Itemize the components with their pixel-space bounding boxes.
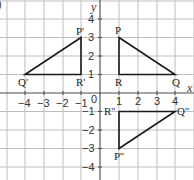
x-tick-label: −2 (56, 97, 69, 109)
coordinate-grid-diagram: ) y x 0 −4 −3 −2 −1 1 2 3 4 4 3 2 1 −1 −… (0, 0, 194, 180)
y-tick-label: −1 (82, 105, 95, 117)
y-tick-label: −3 (82, 142, 95, 154)
vertex-label-p-double-prime: P'' (114, 150, 124, 162)
vertex-label-q-double-prime: Q'' (177, 105, 189, 117)
x-tick-labels: −4 −3 −2 −1 1 2 3 4 (18, 95, 178, 109)
vertex-label-q-prime: Q' (18, 76, 28, 88)
y-tick-label: 2 (88, 50, 94, 62)
y-tick-label: −2 (82, 124, 95, 136)
x-axis-label: x (186, 81, 193, 95)
y-axis-label: y (90, 0, 97, 14)
grid (0, 0, 194, 180)
origin-label: 0 (91, 93, 97, 105)
vertex-label-q: Q (172, 76, 180, 88)
x-tick-label: 1 (116, 95, 122, 107)
x-tick-label: −4 (18, 97, 31, 109)
x-tick-label: 3 (154, 95, 160, 107)
vertex-label-p: P (115, 24, 121, 36)
vertex-label-r-double-prime: R'' (104, 105, 115, 117)
vertex-label-r-prime: R' (76, 76, 85, 88)
y-tick-label: 3 (88, 31, 94, 43)
y-tick-label: 1 (88, 68, 94, 80)
y-tick-label: 4 (88, 13, 94, 25)
x-tick-label: 2 (135, 95, 141, 107)
question-marker: ) (0, 0, 2, 10)
vertex-label-r: R (115, 76, 123, 88)
x-tick-label: −3 (37, 97, 50, 109)
y-tick-label: −4 (82, 161, 95, 173)
vertex-label-p-prime: P' (76, 25, 84, 37)
